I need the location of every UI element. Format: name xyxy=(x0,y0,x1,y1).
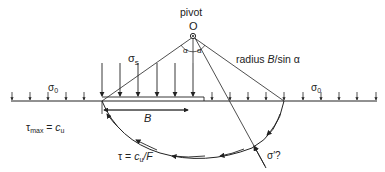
tau-mobilised-label: τ = cu/F xyxy=(118,150,153,163)
tau-max-label: τmax = cu xyxy=(26,121,65,134)
angle-label-left: α xyxy=(183,46,188,55)
normal-stress-label: σ′? xyxy=(267,150,281,161)
radius-label: radius B/sin α xyxy=(236,53,300,65)
footing-stress-label: σs xyxy=(128,52,139,67)
slip-circle-diagram: pivot O α α radius B/sin α σs σ0 σ0 B τm… xyxy=(0,0,385,172)
pivot-point-label: O xyxy=(189,20,198,32)
surcharge-label-left: σ0 xyxy=(48,82,58,94)
angle-label-right: α xyxy=(197,46,202,55)
footing xyxy=(102,97,204,101)
pivot-label: pivot xyxy=(180,6,202,18)
surcharge-arrows-right xyxy=(212,92,376,100)
surcharge-label-right: σ0 xyxy=(311,82,321,94)
surcharge-arrows-left xyxy=(12,92,84,100)
footing-width-label: B xyxy=(144,112,151,124)
